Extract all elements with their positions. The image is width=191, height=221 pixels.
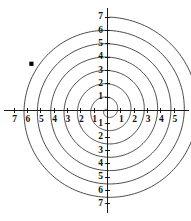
- y-tick-label: 6: [98, 25, 103, 35]
- data-point-marker: [29, 62, 33, 66]
- tick-labels-group: 76543211234512345671234567: [12, 11, 177, 208]
- y-tick-label: 2: [98, 78, 103, 88]
- x-tick-label: 4: [52, 114, 57, 124]
- y-tick-label: 7: [98, 198, 103, 208]
- y-tick-label: 5: [98, 171, 103, 181]
- y-tick-label: 2: [98, 131, 103, 141]
- x-tick-label: 1: [119, 114, 124, 124]
- x-tick-label: 5: [172, 114, 177, 124]
- y-tick-label: 3: [98, 65, 103, 75]
- y-tick-label: 5: [98, 38, 103, 48]
- y-tick-label: 1: [98, 91, 103, 101]
- x-tick-label: 5: [39, 114, 44, 124]
- y-tick-label: 4: [98, 51, 103, 61]
- y-tick-label: 4: [98, 158, 103, 168]
- y-tick-label: 3: [98, 145, 103, 155]
- x-tick-label: 2: [79, 114, 84, 124]
- x-tick-label: 3: [146, 114, 151, 124]
- x-tick-label: 1: [92, 114, 97, 124]
- x-tick-label: 3: [66, 114, 71, 124]
- x-tick-label: 7: [12, 114, 17, 124]
- spiral-figure: 76543211234512345671234567: [0, 0, 191, 221]
- y-tick-label: 1: [98, 118, 103, 128]
- x-tick-label: 2: [132, 114, 137, 124]
- polar-spiral-plot: 76543211234512345671234567: [0, 0, 191, 221]
- x-tick-label: 6: [26, 114, 31, 124]
- x-tick-label: 4: [159, 114, 164, 124]
- y-tick-label: 6: [98, 185, 103, 195]
- y-tick-label: 7: [98, 11, 103, 21]
